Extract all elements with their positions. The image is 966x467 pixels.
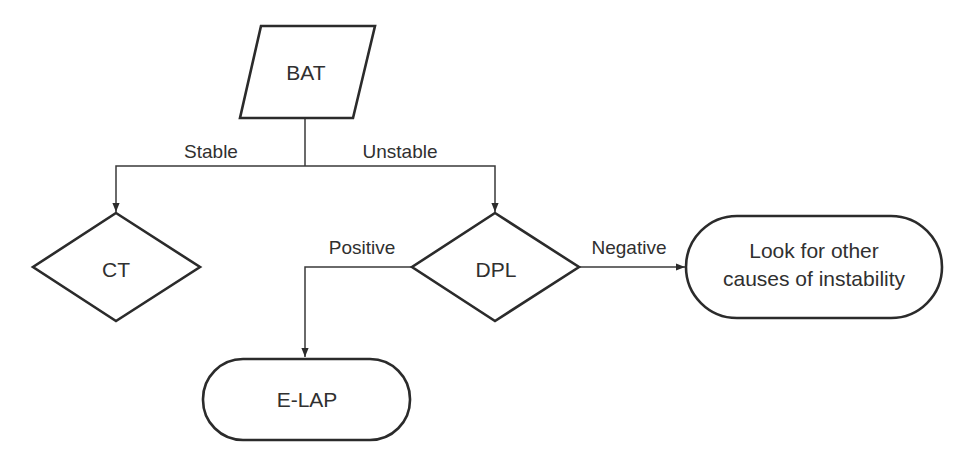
node-other-label-line1: Look for other xyxy=(749,239,879,262)
node-bat-label: BAT xyxy=(286,61,325,84)
flowchart-canvas: BAT CT DPL Look for other causes of inst… xyxy=(0,0,966,467)
node-bat: BAT xyxy=(240,26,375,118)
positive-arrow xyxy=(305,267,412,357)
node-dpl: DPL xyxy=(412,213,579,321)
node-other-label-line2: causes of instability xyxy=(723,267,906,290)
node-ct: CT xyxy=(33,213,200,321)
edge-label-stable: Stable xyxy=(184,141,238,162)
node-elap: E-LAP xyxy=(203,359,410,440)
stable-arrow xyxy=(116,166,305,212)
node-elap-label: E-LAP xyxy=(277,388,338,411)
node-dpl-label: DPL xyxy=(476,258,517,281)
node-ct-label: CT xyxy=(102,258,130,281)
edge-label-negative: Negative xyxy=(592,237,667,258)
node-other-causes: Look for other causes of instability xyxy=(686,216,942,318)
unstable-arrow xyxy=(305,166,495,212)
edge-label-positive: Positive xyxy=(329,237,396,258)
edge-label-unstable: Unstable xyxy=(363,141,438,162)
